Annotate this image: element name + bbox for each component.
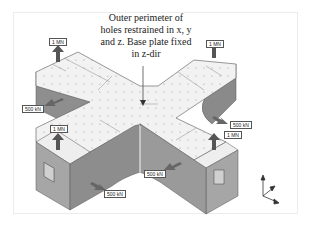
annotation-line: Outer perimeter of [92, 12, 200, 24]
load-label-right-arm: 500 kN [230, 121, 252, 129]
annotation-line: holes restrained in x, y [92, 24, 200, 36]
load-label-top-left: 1 MN [49, 38, 67, 46]
load-label-front-right: 1 MN [224, 131, 242, 139]
load-label-front-left: 1 MN [50, 125, 68, 133]
restraint-annotation: Outer perimeter of holes restrained in x… [92, 12, 200, 60]
annotation-line: in z-dir [92, 48, 200, 60]
load-label-top-right: 1 MN [206, 40, 224, 48]
load-label-front-bottom: 500 kN [104, 190, 126, 198]
axis-z-arrow-icon [261, 175, 265, 180]
front-right-opening [214, 170, 224, 184]
axis-triad [261, 175, 279, 204]
load-label-left-arm: 500 kN [22, 105, 44, 113]
axis-x-arrow-icon [274, 199, 279, 204]
load-label-inner-corner: 500 kN [144, 170, 166, 178]
annotation-line: and z. Base plate fixed [92, 36, 200, 48]
